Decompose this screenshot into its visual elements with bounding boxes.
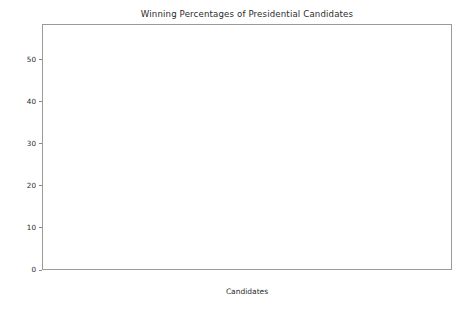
y-tick-label: 20 [27, 181, 36, 190]
y-tick-mark [39, 185, 43, 186]
y-tick-mark [39, 227, 43, 228]
y-tick-mark [39, 143, 43, 144]
y-tick-label: 30 [27, 139, 36, 148]
bars-container [43, 25, 451, 269]
x-axis-label: Candidates [42, 287, 452, 296]
y-tick-mark [39, 59, 43, 60]
y-tick-label: 10 [27, 223, 36, 232]
y-tick-label: 0 [31, 265, 36, 274]
plot-area [42, 24, 452, 270]
y-tick-label: 50 [27, 55, 36, 64]
y-tick-label: 40 [27, 97, 36, 106]
y-tick-mark [39, 101, 43, 102]
figure-canvas: Winning Percentages of Presidential Cand… [0, 0, 465, 309]
y-tick-mark [39, 270, 43, 271]
chart-title: Winning Percentages of Presidential Cand… [42, 9, 452, 20]
